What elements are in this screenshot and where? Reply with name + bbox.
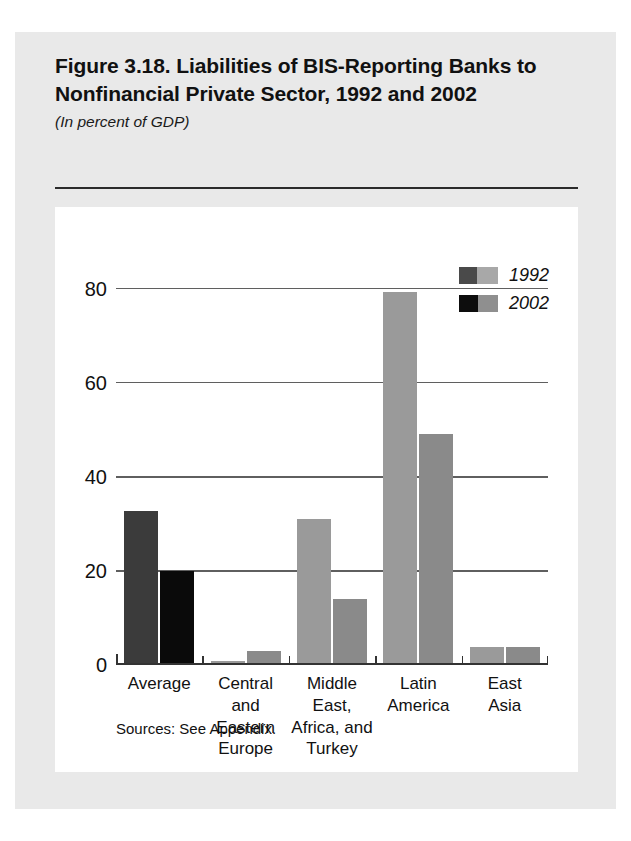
figure-page-panel: Figure 3.18. Liabilities of BIS-Reportin…	[15, 32, 616, 809]
x-axis-tick	[202, 656, 204, 665]
page-title: Figure 3.18. Liabilities of BIS-Reportin…	[55, 52, 575, 107]
bar-2002-2	[333, 599, 367, 663]
bar-2002-1	[247, 651, 281, 663]
x-axis-category-label: Central and Eastern Europe	[216, 673, 275, 760]
bar-1992-4	[470, 647, 504, 663]
legend-label-2002: 2002	[509, 293, 549, 314]
y-axis-tick-label: 60	[85, 371, 107, 394]
legend-swatch-1992-icon	[459, 267, 498, 284]
legend-swatch-2002-icon	[459, 295, 498, 312]
chart-container: 020406080AverageCentral and Eastern Euro…	[55, 207, 578, 772]
y-axis-tick-label: 40	[85, 465, 107, 488]
y-axis-tick-label: 0	[96, 654, 107, 677]
gridline-40	[116, 476, 548, 478]
bar-1992-1	[211, 661, 245, 663]
x-axis-tick	[375, 656, 377, 665]
source-note: Sources: See Appendix.	[116, 720, 276, 737]
x-axis-category-label: Latin America	[387, 673, 449, 717]
x-axis-category-label: Middle East, Africa, and Turkey	[291, 673, 372, 760]
x-axis-tick	[289, 656, 291, 665]
header-divider	[55, 187, 578, 189]
gridline-60	[116, 382, 548, 384]
bar-2002-4	[506, 647, 540, 663]
x-axis-baseline	[116, 663, 548, 665]
bar-chart-plot-area: 020406080AverageCentral and Eastern Euro…	[116, 265, 548, 665]
x-axis-category-label: Average	[128, 673, 191, 695]
bar-2002-3	[419, 434, 453, 663]
legend-item-2002: 2002	[459, 293, 549, 314]
chart-legend: 1992 2002	[459, 265, 549, 321]
x-axis-category-label: East Asia	[488, 673, 522, 717]
legend-item-1992: 1992	[459, 265, 549, 286]
bar-1992-2	[297, 519, 331, 663]
x-axis-tick	[462, 656, 464, 665]
figure-header: Figure 3.18. Liabilities of BIS-Reportin…	[55, 52, 575, 131]
bar-1992-0	[124, 511, 158, 663]
x-axis-tick-end	[547, 656, 549, 665]
x-axis-tick	[116, 656, 118, 665]
y-axis-tick-label: 20	[85, 559, 107, 582]
figure-subtitle: (In percent of GDP)	[55, 113, 575, 131]
bar-1992-3	[383, 292, 417, 663]
bar-2002-0	[160, 571, 194, 663]
legend-label-1992: 1992	[509, 265, 549, 286]
y-axis-tick-label: 80	[85, 277, 107, 300]
